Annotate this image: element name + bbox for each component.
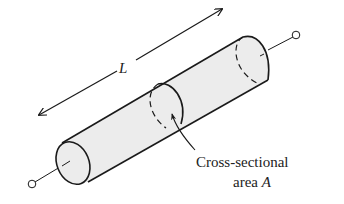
area-label-word: area: [233, 174, 262, 190]
length-label: L: [118, 60, 127, 76]
area-label-line2: area A: [233, 174, 272, 190]
area-symbol: A: [261, 174, 272, 190]
area-label-line1: Cross-sectional: [196, 154, 288, 170]
conductor-diagram: L Cross-sectional area A: [0, 0, 344, 204]
